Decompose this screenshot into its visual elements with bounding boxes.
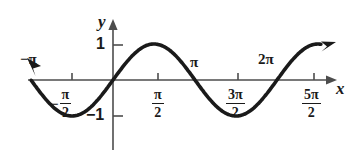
y-axis-label: y [98,13,106,30]
fraction-numerator: π [60,88,72,104]
fraction-denominator: 2 [302,104,321,121]
x-axis-label: x [336,80,345,97]
minus-sign-glyph: − [50,97,60,112]
fraction-numerator: 5π [302,88,321,104]
graph-canvas [0,0,362,161]
fraction-numerator: π [152,88,164,104]
curve-right-arrowhead [321,42,336,52]
fraction-3pi-over-2: 3π2 [226,88,245,121]
fraction-denominator: 2 [152,104,164,121]
y-tick-label-one: 1 [96,36,105,52]
fraction-5pi-over-2: 5π2 [302,88,321,121]
y-tick-label-minus-one: −1 [86,107,104,123]
x-tick-label-minus-pi-over-2: −π2 [50,88,71,121]
x-tick-label-2pi: 2π [258,52,274,67]
fraction-denominator: 2 [60,104,72,121]
y-axis-arrowhead [108,19,117,30]
x-tick-label-pi-over-2: π2 [152,88,164,121]
x-tick-label-minus-pi: −π [20,52,37,67]
sine-graph-figure: y x 1 −1 −π −π2 π2 π 3π2 2π 5π2 [0,0,362,161]
fraction-pi-over-2: π2 [152,88,164,121]
x-tick-label-5pi-over-2: 5π2 [302,88,321,121]
fraction-numerator: 3π [226,88,245,104]
fraction-minus-pi-over-2: π2 [60,88,72,121]
x-tick-label-3pi-over-2: 3π2 [226,88,245,121]
fraction-denominator: 2 [226,104,245,121]
x-tick-label-pi: π [190,55,198,70]
